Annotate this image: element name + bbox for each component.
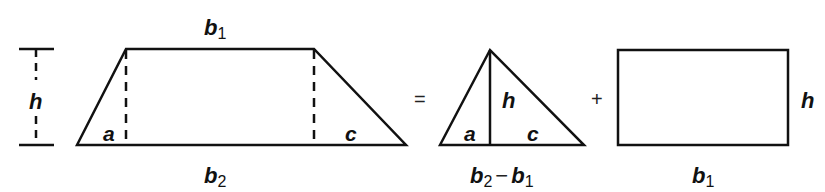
plus-sign: + [591,88,603,110]
trapezoid-area-diagram: h b1 b2 a c = h a c b2−b1 + h b1 [0,0,825,192]
rectangle-base-label: b1 [692,163,714,190]
trapezoid-segment-c-label: c [345,122,357,145]
rectangle-height-label: h [801,88,814,113]
triangle-height-label: h [502,88,515,113]
triangle-segment-c-label: c [527,122,539,145]
trapezoid-bottom-base-label: b2 [204,163,226,190]
triangle-segment-a-label: a [464,122,476,145]
equals-sign: = [414,88,426,110]
trapezoid-segment-a-label: a [103,122,115,145]
height-marker-label: h [29,89,42,114]
rectangle-shape [618,50,788,145]
triangle-base-label: b2−b1 [470,163,534,190]
trapezoid-top-base-label: b1 [204,15,226,42]
